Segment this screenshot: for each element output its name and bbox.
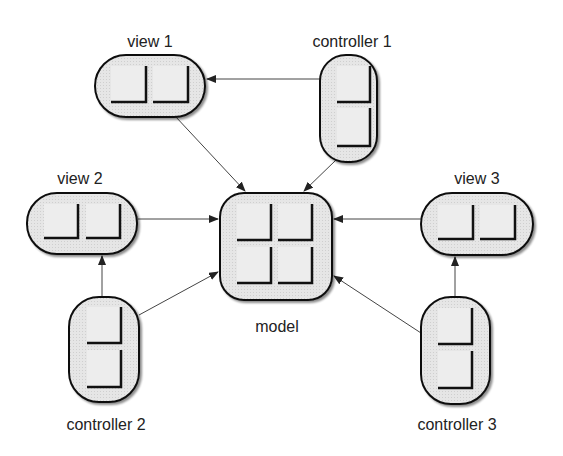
edge-controller2-model xyxy=(139,272,218,315)
node-controller3: controller 3 xyxy=(417,297,496,433)
view1-label: view 1 xyxy=(127,33,172,50)
node-controller2: controller 2 xyxy=(66,297,145,433)
edge-controller3-model xyxy=(334,276,421,333)
controller3-label: controller 3 xyxy=(417,416,496,433)
node-controller1: controller 1 xyxy=(312,33,391,162)
view3-label: view 3 xyxy=(454,170,499,187)
node-view3: view 3 xyxy=(421,170,533,255)
controller2-label: controller 2 xyxy=(66,416,145,433)
mvc-diagram: view 1 controller 1 view 2 xyxy=(0,0,563,456)
node-model: model xyxy=(220,193,332,335)
edge-view1-model xyxy=(175,116,245,191)
node-view2: view 2 xyxy=(27,170,137,254)
model-label: model xyxy=(255,318,299,335)
edge-controller1-model xyxy=(304,160,336,191)
controller1-label: controller 1 xyxy=(312,33,391,50)
view2-label: view 2 xyxy=(57,170,102,187)
node-view1: view 1 xyxy=(95,33,205,117)
